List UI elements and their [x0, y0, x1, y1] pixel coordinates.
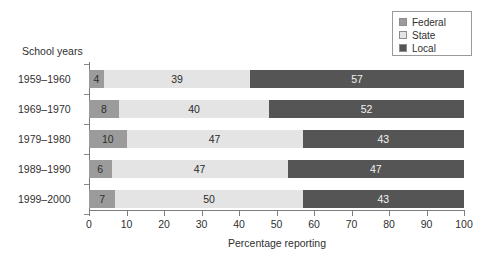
x-axis-tick-label: 10	[121, 218, 133, 230]
bar-segment-value: 6	[97, 164, 103, 175]
x-axis-tick-label: 50	[271, 218, 283, 230]
bar-row: 104743	[89, 130, 464, 148]
bar-segment-value: 7	[99, 194, 105, 205]
stacked-bar: 104743	[89, 130, 464, 148]
bar-segment-value: 47	[370, 164, 382, 175]
x-axis-tick-label: 20	[158, 218, 170, 230]
bar-segment-value: 50	[203, 194, 215, 205]
bar-segment-federal: 6	[89, 160, 112, 178]
bar-segment-state: 40	[119, 100, 269, 118]
x-axis-tick	[164, 211, 165, 216]
plot-area: 43957840521047436474775043	[89, 62, 464, 210]
x-axis-title-text: Percentage reporting	[158, 237, 326, 249]
bar-segment-state: 47	[127, 130, 303, 148]
y-axis-tick	[84, 124, 89, 125]
legend-label-local: Local	[412, 43, 436, 54]
bar-segment-state: 50	[115, 190, 303, 208]
bar-row: 84052	[89, 100, 464, 118]
legend-item-state: State	[399, 29, 471, 41]
legend-swatch-federal	[399, 18, 407, 26]
y-axis-tick	[84, 64, 89, 65]
x-axis-tick-label: 100	[455, 218, 473, 230]
y-axis-tick	[84, 94, 89, 95]
x-axis-tick	[277, 211, 278, 216]
legend-item-federal: Federal	[399, 16, 471, 28]
bar-segment-value: 8	[101, 104, 107, 115]
chart-legend: Federal State Local	[392, 11, 472, 56]
legend-item-local: Local	[399, 42, 471, 54]
bar-segment-federal: 7	[89, 190, 115, 208]
bar-segment-value: 40	[188, 104, 200, 115]
legend-swatch-state	[399, 31, 407, 39]
bar-segment-federal: 4	[89, 70, 104, 88]
stacked-bar: 75043	[89, 190, 464, 208]
x-axis-tick	[464, 211, 465, 216]
stacked-bar: 43957	[89, 70, 464, 88]
x-axis-tick	[389, 211, 390, 216]
x-axis-tick-label: 90	[421, 218, 433, 230]
x-axis-tick-label: 60	[308, 218, 320, 230]
x-axis-tick	[352, 211, 353, 216]
x-axis-title: Percentage reporting	[0, 237, 484, 249]
bar-segment-value: 39	[171, 74, 183, 85]
x-axis-tick	[127, 211, 128, 216]
x-axis-tick-label: 70	[346, 218, 358, 230]
y-axis-label: 1999–2000	[18, 193, 82, 205]
bar-segment-value: 10	[102, 134, 114, 145]
x-axis-tick	[202, 211, 203, 216]
x-axis-tick	[314, 211, 315, 216]
x-axis-tick-label: 0	[86, 218, 92, 230]
bar-segment-state: 39	[104, 70, 250, 88]
x-axis-tick-label: 40	[233, 218, 245, 230]
bar-row: 64747	[89, 160, 464, 178]
bar-segment-local: 43	[303, 190, 464, 208]
y-axis-label: 1979–1980	[18, 133, 82, 145]
bar-segment-value: 47	[194, 164, 206, 175]
y-axis-label: 1969–1970	[18, 103, 82, 115]
bar-segment-value: 52	[361, 104, 373, 115]
bar-segment-value: 57	[351, 74, 363, 85]
x-axis-tick-label: 30	[196, 218, 208, 230]
y-axis-label: 1989–1990	[18, 163, 82, 175]
bar-segment-local: 47	[288, 160, 464, 178]
legend-label-state: State	[412, 30, 435, 41]
stacked-bar: 84052	[89, 100, 464, 118]
bar-segment-local: 43	[303, 130, 464, 148]
legend-swatch-local	[399, 44, 407, 52]
bar-segment-value: 43	[378, 134, 390, 145]
y-axis-group-title: School years	[22, 45, 83, 57]
bar-segment-value: 47	[209, 134, 221, 145]
y-axis-label: 1959–1960	[18, 73, 82, 85]
bar-segment-local: 52	[269, 100, 464, 118]
bar-row: 43957	[89, 70, 464, 88]
y-axis-tick	[84, 154, 89, 155]
x-axis-tick	[427, 211, 428, 216]
chart-canvas: Federal State Local School years 4395784…	[0, 0, 484, 264]
stacked-bar: 64747	[89, 160, 464, 178]
bar-segment-state: 47	[112, 160, 288, 178]
bar-segment-value: 43	[378, 194, 390, 205]
x-axis-tick-label: 80	[383, 218, 395, 230]
bar-segment-federal: 10	[89, 130, 127, 148]
x-axis-tick	[89, 211, 90, 216]
bar-row: 75043	[89, 190, 464, 208]
legend-label-federal: Federal	[412, 17, 446, 28]
bar-segment-federal: 8	[89, 100, 119, 118]
x-axis-tick	[239, 211, 240, 216]
bar-segment-value: 4	[94, 74, 100, 85]
y-axis-tick	[84, 184, 89, 185]
bar-segment-local: 57	[250, 70, 464, 88]
